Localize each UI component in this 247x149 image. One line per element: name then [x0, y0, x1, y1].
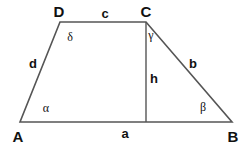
side-label-a: a [121, 127, 128, 140]
side-label-b: b [189, 57, 197, 70]
vertex-label-d: D [54, 4, 65, 19]
side-label-d: d [29, 57, 37, 70]
vertex-label-b: B [228, 129, 239, 144]
vertex-label-c: C [141, 4, 152, 19]
height-label-h: h [150, 72, 158, 85]
vertex-label-a: A [13, 129, 24, 144]
side-label-c: c [101, 7, 108, 20]
angle-label-alpha: α [43, 102, 49, 114]
angle-label-gamma: γ [148, 29, 153, 41]
angle-label-delta: δ [67, 31, 73, 43]
angle-label-beta: β [200, 101, 206, 113]
trapezoid-diagram: D C A B c b a d h δ γ α β [0, 0, 247, 149]
